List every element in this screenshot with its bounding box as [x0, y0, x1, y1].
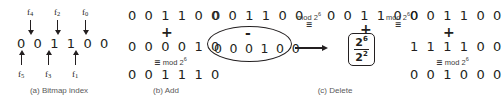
fraction-denominator-exponent: 2	[363, 50, 368, 58]
fraction-denominator: 2	[355, 50, 363, 63]
caption-panel-c: (c) Delete	[300, 86, 370, 95]
arrow-down-f4	[30, 20, 31, 31]
equivalence-icon-1: ≡	[294, 21, 324, 29]
equivalence-icon-2: ≡	[383, 21, 413, 29]
delete-left-operator: -	[245, 26, 251, 40]
delete-mod-annotation-2: mod 26 ≡	[383, 12, 413, 29]
panel-bitmap-index: f4 f2 f0 0 0 1 1 0 0 f5 f3 f1 (a) Bitmap…	[0, 0, 128, 100]
delete-right-result: 0 0 1 0 0 0	[410, 67, 503, 82]
arrow-up-f3	[48, 54, 49, 65]
add-mod-exponent: 6	[184, 56, 187, 62]
add-operator: +	[161, 25, 173, 39]
delete-right-operand-1: 0 0 1 1 0 0	[410, 8, 503, 23]
label-f0: f0	[82, 7, 88, 17]
label-f5: f5	[18, 69, 24, 79]
delete-mod-annotation-1: mod 26 ≡	[294, 12, 324, 29]
delete-left-operand-2: 0 0 0 1 0 0	[214, 41, 301, 56]
delete-right-operand-2: 1 1 1 1 0 0	[410, 39, 503, 54]
add-mod-text: mod 2	[163, 58, 184, 67]
delete-fraction-box: 26 22	[348, 33, 375, 66]
caption-panel-a: (a) Bitmap index	[14, 86, 104, 95]
delete-transform-arrow-icon	[295, 47, 323, 49]
delete-right-mod-annotation: ≡ mod 26	[436, 57, 469, 67]
arrow-down-f2	[57, 20, 58, 31]
delete-fraction: 26 22	[354, 36, 369, 63]
arrow-down-f0	[85, 20, 86, 31]
delete-right-operator: +	[443, 25, 455, 39]
delete-mod-exponent-1: 6	[318, 11, 321, 17]
arrow-up-f1	[75, 54, 76, 65]
delete-right-mod-exponent: 6	[466, 56, 469, 62]
equivalence-icon-3: ≡	[436, 58, 443, 67]
delete-left-operand-1: 0 0 1 1 0 0	[212, 8, 305, 23]
caption-panel-b: (b) Add	[136, 86, 196, 95]
label-f1: f1	[72, 69, 78, 79]
equivalence-icon: ≡	[154, 58, 161, 67]
panel-delete: 0 0 1 1 0 0 - 0 0 0 1 0 0 mod 26 ≡ 0 0 1…	[205, 0, 490, 100]
add-mod-annotation: ≡ mod 26	[154, 57, 187, 67]
label-f4: f4	[27, 7, 33, 17]
delete-right-mod-text: mod 2	[445, 58, 466, 67]
bitmap-bits: 0 0 1 1 0 0	[17, 36, 110, 51]
label-f2: f2	[54, 7, 60, 17]
panel-add: 0 0 1 1 0 0 + 0 0 0 0 1 0 ≡ mod 26 0 0 1…	[128, 0, 210, 100]
fraction-numerator-exponent: 6	[363, 35, 368, 43]
arrow-up-f5	[21, 54, 22, 65]
label-f3: f3	[45, 69, 51, 79]
fraction-numerator: 2	[355, 36, 363, 49]
